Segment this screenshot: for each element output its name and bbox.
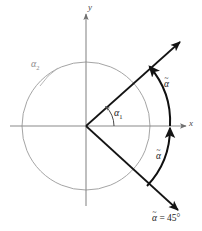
tilde-accent-upper: ~ <box>164 75 168 82</box>
x-axis-label: x <box>189 119 193 128</box>
alpha-2-label: α2 <box>31 59 40 72</box>
y-axis-label: y <box>88 3 92 12</box>
reference-angle-equation: ~α = 45° <box>152 214 180 224</box>
tilde-accent-equation: ~ <box>152 209 156 216</box>
tilde-accent-lower: ~ <box>156 147 160 154</box>
alpha-1-subscript: 1 <box>119 113 122 120</box>
alpha-tilde-upper-label: ~α <box>164 80 169 90</box>
alpha-1-angle-arc <box>106 106 115 126</box>
alpha-1-label: α1 <box>114 108 123 121</box>
equation-value: = 45° <box>157 213 180 223</box>
unit-circle-diagram <box>0 0 202 231</box>
alpha-2-angle-arc <box>40 68 58 86</box>
alpha-2-subscript: 2 <box>36 64 39 71</box>
figure-canvas: y x α1 α2 ~α ~α ~α = 45° <box>0 0 202 231</box>
lower-ray <box>86 126 178 210</box>
alpha-tilde-lower-label: ~α <box>156 152 161 162</box>
